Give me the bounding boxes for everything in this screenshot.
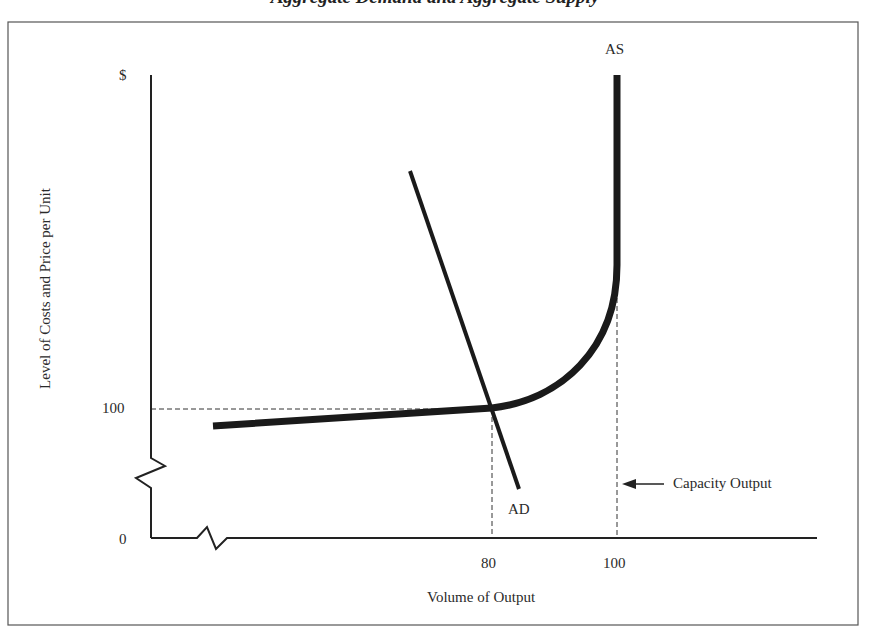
chart-frame: [8, 22, 858, 625]
y-axis-label: Level of Costs and Price per Unit: [37, 179, 54, 399]
arrow-left-icon: [622, 479, 636, 489]
x-axis: [151, 527, 817, 549]
ad-label: AD: [508, 501, 530, 518]
x-tick-100: 100: [603, 555, 626, 572]
as-label: AS: [605, 41, 624, 58]
ad-curve: [410, 171, 519, 489]
chart-canvas: [0, 0, 870, 637]
x-axis-label: Volume of Output: [427, 589, 535, 606]
y-tick-0: 0: [119, 531, 127, 548]
as-curve: [213, 75, 617, 426]
y-tick-100: 100: [102, 400, 125, 417]
y-unit-label: $: [119, 67, 127, 84]
capacity-output-label: Capacity Output: [673, 475, 772, 492]
y-axis: [136, 75, 165, 538]
x-tick-80: 80: [481, 555, 496, 572]
